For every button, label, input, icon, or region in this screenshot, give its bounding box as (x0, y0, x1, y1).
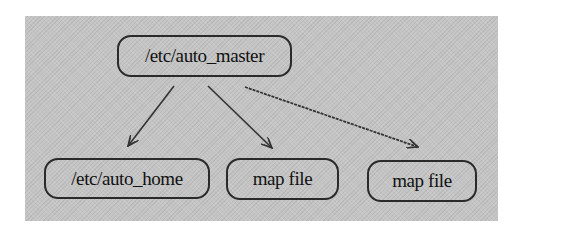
node-map-file-2-label: map file (392, 170, 452, 192)
node-map-file-2: map file (367, 160, 477, 202)
node-auto-master-label: /etc/auto_master (145, 45, 264, 67)
edge-master-to-auto-home (128, 86, 174, 146)
node-auto-home: /etc/auto_home (44, 158, 210, 199)
edge-master-to-map-file-1 (208, 86, 272, 148)
node-map-file-1: map file (226, 158, 339, 200)
node-auto-master: /etc/auto_master (117, 35, 292, 77)
edge-master-to-map-file-2 (245, 87, 418, 147)
node-map-file-1-label: map file (253, 168, 313, 190)
node-auto-home-label: /etc/auto_home (71, 168, 183, 190)
